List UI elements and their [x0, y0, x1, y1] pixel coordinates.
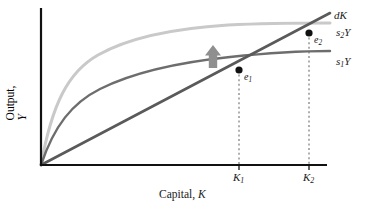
curve-label-s1Y-sub: 1 [340, 60, 344, 69]
x-axis-title-var: K [198, 188, 206, 200]
tick-label-K2: K2 [303, 172, 314, 183]
tick-label-K1-sub: 1 [240, 176, 244, 185]
x-axis-title-prefix: Capital, [159, 188, 198, 200]
point-e2 [305, 29, 312, 36]
shift-up-arrow [205, 45, 221, 68]
point-label-e1-sub: 1 [248, 76, 252, 84]
point-label-e2: e2 [314, 35, 322, 45]
plot-canvas [0, 0, 372, 209]
line-dK [41, 13, 330, 165]
tick-label-K2-sub: 2 [310, 176, 314, 185]
curve-label-s1Y: s1Y [336, 56, 350, 67]
curve-label-s1Y-suffix: Y [344, 55, 350, 67]
curve-label-dK: dK [334, 10, 347, 21]
curve-s1Y [41, 51, 330, 165]
y-axis-title-var: Y [16, 114, 28, 120]
y-axis-title-wrap: Output, Y [8, 55, 24, 150]
y-axis-title-prefix: Output, [4, 85, 16, 120]
x-axis-title: Capital, K [159, 189, 206, 201]
point-label-e1: e1 [244, 72, 252, 82]
point-e1 [235, 66, 242, 73]
point-label-e2-sub: 2 [318, 39, 322, 47]
curve-label-s2Y-suffix: Y [344, 26, 350, 38]
curve-label-s2Y: s2Y [336, 27, 350, 38]
curve-s2Y [41, 23, 330, 165]
growth-model-figure: dK s2Y s1Y e1 e2 K1 K2 Capital, K Output… [0, 0, 372, 209]
curve-label-s2Y-sub: 2 [340, 31, 344, 40]
y-axis-title: Output, Y [4, 85, 28, 120]
tick-label-K1: K1 [233, 172, 244, 183]
